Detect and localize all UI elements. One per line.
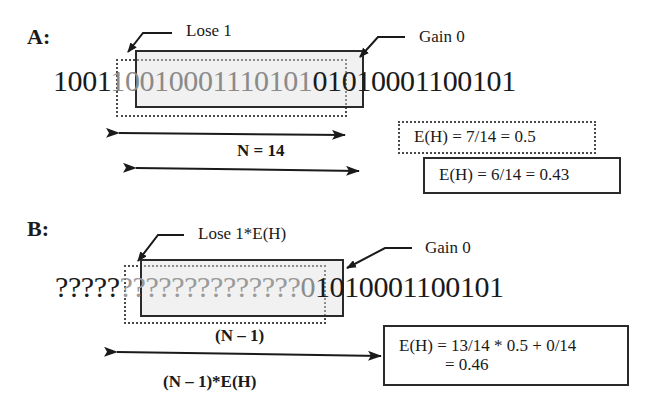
span-arrow-old-a <box>119 133 345 135</box>
lose-arrow-b <box>138 235 184 261</box>
span-arrow-new-a <box>136 168 359 171</box>
span-arrow-b <box>117 352 381 356</box>
arrows-layer <box>0 0 654 419</box>
gain-arrow-b <box>347 248 412 268</box>
lose-arrow-a <box>128 33 172 52</box>
gain-arrow-a <box>360 37 405 57</box>
